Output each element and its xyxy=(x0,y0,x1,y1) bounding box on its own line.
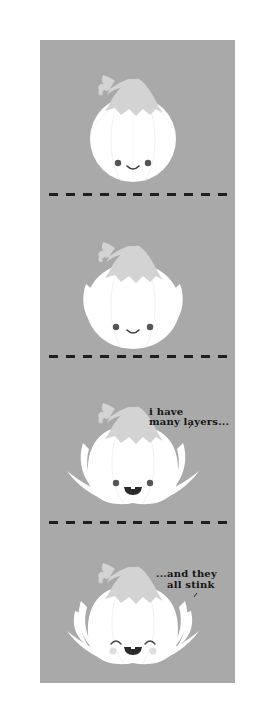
panel-1 xyxy=(90,75,176,182)
panel-separator-2 xyxy=(49,355,227,358)
panel-separator-1 xyxy=(49,193,227,196)
caption-panel-4-line-1: ...and they xyxy=(156,569,217,579)
caption-panel-4-line-2: all stink xyxy=(167,580,215,590)
panel-separator-3 xyxy=(49,521,227,524)
comic-strip: i have many layers... ...and they all st… xyxy=(40,40,235,683)
caption-panel-3-line-2: many layers... xyxy=(149,417,229,427)
panel-2 xyxy=(83,242,182,349)
